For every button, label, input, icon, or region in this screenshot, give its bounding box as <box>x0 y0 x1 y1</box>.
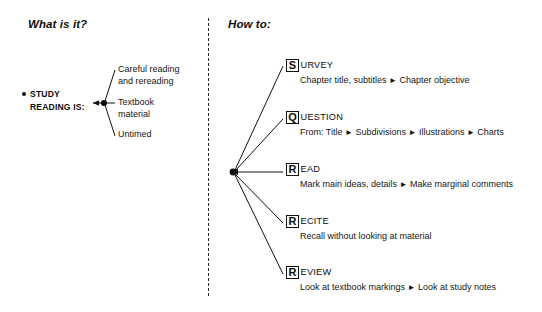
arrow-separator-icon: ► <box>406 128 419 137</box>
step-description-part: Subdivisions <box>355 127 406 137</box>
step-initial-box: Q <box>286 111 299 124</box>
step-description-part: Mark main ideas, details <box>300 179 397 189</box>
left-panel-heading: What is it? <box>28 18 87 30</box>
step-initial-box: R <box>286 215 299 228</box>
step-description: Chapter title, subtitles►Chapter objecti… <box>300 75 470 86</box>
panel-divider <box>208 18 209 296</box>
step-initial-box: S <box>286 59 299 72</box>
step-title-rest: UESTION <box>301 112 344 122</box>
arrow-separator-icon: ► <box>464 128 477 137</box>
step-title: S URVEY <box>286 58 470 72</box>
bullet-icon <box>22 92 26 96</box>
step-title: Q UESTION <box>286 110 504 124</box>
step-description-part: Look at textbook markings <box>300 282 405 292</box>
step-title: R EVIEW <box>286 265 496 279</box>
step-title: R ECITE <box>286 214 432 228</box>
root-label-line1: STUDY <box>30 89 60 99</box>
sq3r-step-recite: R ECITE Recall without looking at materi… <box>286 214 432 242</box>
root-label-line2: READING IS: <box>22 101 108 114</box>
step-description-part: Charts <box>477 127 504 137</box>
step-initial-box: R <box>286 163 299 176</box>
branch-label-untimed: Untimed <box>118 129 152 141</box>
step-description-part: Make marginal comments <box>410 179 513 189</box>
arrow-separator-icon: ► <box>343 128 356 137</box>
branch-label-careful-reading: Careful reading and rereading <box>118 64 180 87</box>
sq3r-step-question: Q UESTION From: Title►Subdivisions►Illus… <box>286 110 504 138</box>
step-title: R EAD <box>286 162 513 176</box>
branch-label-textbook-material: Textbook material <box>118 97 154 120</box>
study-reading-diagram: What is it? STUDY READING IS: Careful re… <box>0 0 542 312</box>
step-description-part: Recall without looking at material <box>300 231 432 241</box>
root-node-label: STUDY READING IS: <box>22 88 108 113</box>
step-title-rest: URVEY <box>301 60 334 70</box>
step-description: From: Title►Subdivisions►Illustrations►C… <box>300 127 504 138</box>
sq3r-step-read: R EAD Mark main ideas, details►Make marg… <box>286 162 513 190</box>
arrow-separator-icon: ► <box>387 76 400 85</box>
step-description-part: Chapter objective <box>399 75 469 85</box>
sq3r-step-survey: S URVEY Chapter title, subtitles►Chapter… <box>286 58 470 86</box>
step-description-part: Illustrations <box>419 127 465 137</box>
step-description: Mark main ideas, details►Make marginal c… <box>300 179 513 190</box>
step-title-rest: EAD <box>301 164 321 174</box>
right-panel-heading: How to: <box>228 18 271 30</box>
step-title-rest: EVIEW <box>301 267 332 277</box>
step-description-part: Chapter title, subtitles <box>300 75 387 85</box>
sq3r-step-review: R EVIEW Look at textbook markings►Look a… <box>286 265 496 293</box>
arrow-separator-icon: ► <box>397 180 410 189</box>
step-description: Recall without looking at material <box>300 231 432 242</box>
arrow-separator-icon: ► <box>405 283 418 292</box>
step-title-rest: ECITE <box>301 216 329 226</box>
step-description-part: From: Title <box>300 127 343 137</box>
step-description: Look at textbook markings►Look at study … <box>300 282 496 293</box>
step-initial-box: R <box>286 266 299 279</box>
step-description-part: Look at study notes <box>418 282 496 292</box>
